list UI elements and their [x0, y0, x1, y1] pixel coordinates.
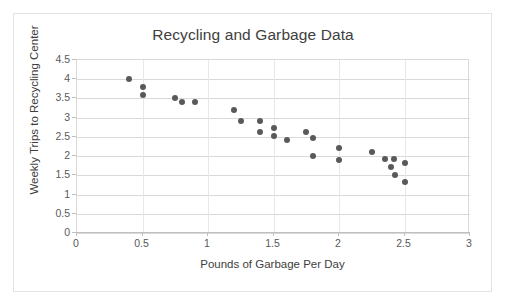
y-axis-tick-label: 4 [40, 73, 70, 83]
y-axis-tick-label: 2 [40, 150, 70, 160]
scatter-point [284, 137, 290, 143]
x-axis-tick-mark [469, 232, 470, 236]
scatter-point [402, 179, 408, 185]
x-axis-tick-label: 0 [56, 237, 96, 249]
scatter-point [402, 160, 408, 166]
scatter-point [238, 118, 244, 124]
scatter-point [336, 157, 342, 163]
x-axis-tick-mark [207, 232, 208, 236]
plot-area [76, 59, 469, 232]
scatter-point [391, 156, 397, 162]
x-axis-title: Pounds of Garbage Per Day [76, 258, 469, 270]
gridline-vertical [274, 60, 275, 233]
scatter-point [126, 76, 132, 82]
y-axis-tick-label: 2.5 [40, 131, 70, 141]
scatter-point [231, 107, 237, 113]
scatter-point [192, 99, 198, 105]
x-axis-tick-label: 1 [187, 237, 227, 249]
x-axis-tick-label: 3 [449, 237, 489, 249]
scatter-point [310, 135, 316, 141]
scatter-point [179, 99, 185, 105]
scatter-point [392, 172, 398, 178]
x-axis-tick-mark [273, 232, 274, 236]
x-axis-tick-mark [338, 232, 339, 236]
y-axis-tick-label: 1 [40, 189, 70, 199]
y-axis-tick-labels: 00.511.522.533.544.5 [38, 0, 70, 305]
scatter-point [382, 156, 388, 162]
scatter-point [271, 133, 277, 139]
y-axis-tick-label: 4.5 [40, 54, 70, 64]
y-axis-tick-label: 3.5 [40, 92, 70, 102]
gridline-vertical [208, 60, 209, 233]
x-axis-tick-label: 2.5 [384, 237, 424, 249]
y-axis-tick-label: 0.5 [40, 208, 70, 218]
y-axis-tick-label: 0 [40, 227, 70, 237]
gridline-vertical [405, 60, 406, 233]
x-axis-tick-mark [404, 232, 405, 236]
x-axis-tick-mark [76, 232, 77, 236]
y-axis-tick-label: 3 [40, 112, 70, 122]
gridline-horizontal [77, 233, 470, 234]
scatter-point [369, 149, 375, 155]
scatter-point [257, 129, 263, 135]
scatter-point [257, 118, 263, 124]
scatter-point [388, 164, 394, 170]
chart-title: Recycling and Garbage Data [0, 26, 506, 44]
scatter-point [172, 95, 178, 101]
scatter-point [140, 92, 146, 98]
y-axis-tick-label: 1.5 [40, 169, 70, 179]
scatter-point [310, 153, 316, 159]
x-axis-tick-label: 2 [318, 237, 358, 249]
scatter-point [271, 125, 277, 131]
scatter-point [140, 84, 146, 90]
x-axis-tick-label: 1.5 [253, 237, 293, 249]
x-axis-tick-mark [142, 232, 143, 236]
x-axis-tick-label: 0.5 [122, 237, 162, 249]
scatter-point [336, 145, 342, 151]
scatter-point [303, 129, 309, 135]
chart-container: Recycling and Garbage Data Weekly Trips … [0, 0, 506, 305]
